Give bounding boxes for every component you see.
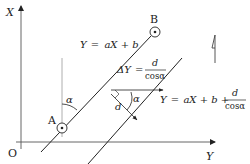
upper-line-equation: Y = aX + b bbox=[80, 39, 139, 50]
delta-frac-num: d bbox=[152, 57, 158, 68]
lower-eq-lhs: Y bbox=[160, 94, 168, 105]
upper-eq-rhs: aX + b bbox=[104, 39, 138, 50]
distance-label: d bbox=[115, 101, 121, 112]
svg-text:Y = aX + b +: Y = aX + b + bbox=[160, 94, 229, 105]
lower-eq-equals: = bbox=[171, 94, 179, 105]
right-angle-marker bbox=[115, 90, 119, 98]
alpha-arc-mid bbox=[127, 92, 132, 110]
delta-y-equals: = bbox=[135, 64, 143, 75]
upper-eq-lhs: Y bbox=[80, 39, 88, 50]
alpha-label-a: α bbox=[66, 94, 73, 105]
diagram-canvas: X Y O α A B Y = aX + b ΔY = d bbox=[0, 0, 250, 164]
point-a-label: A bbox=[47, 114, 57, 127]
upper-eq-equals: = bbox=[91, 39, 99, 50]
point-b-marker bbox=[150, 27, 160, 37]
y-axis-label: Y bbox=[206, 150, 215, 163]
origin-label: O bbox=[8, 147, 17, 160]
upward-harpoon-arrow-icon bbox=[212, 35, 215, 63]
point-a-marker bbox=[57, 123, 67, 133]
delta-frac-den: cosα bbox=[145, 71, 165, 81]
svg-text:ΔY =: ΔY = bbox=[116, 64, 143, 75]
point-b-label: B bbox=[150, 13, 158, 26]
svg-text:Y = aX + b: Y = aX + b bbox=[80, 39, 139, 50]
lower-frac-num: d bbox=[232, 87, 238, 98]
delta-y-lhs: ΔY bbox=[116, 64, 132, 75]
delta-y-equation: ΔY = d cosα bbox=[116, 57, 166, 81]
lower-eq-rhs: aX + b + bbox=[183, 94, 229, 105]
lower-line-equation: Y = aX + b + d cosα bbox=[160, 87, 246, 111]
alpha-label-mid: α bbox=[133, 93, 140, 104]
x-axis-label: X bbox=[5, 6, 15, 19]
lower-frac-den: cosα bbox=[225, 101, 245, 111]
